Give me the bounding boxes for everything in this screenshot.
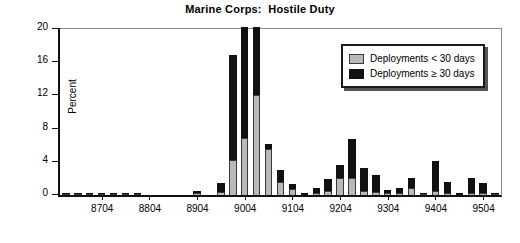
bar-9303 (372, 175, 379, 195)
bar-segment-long-9101 (253, 27, 260, 95)
y-tick-16: 16 (52, 61, 60, 62)
x-tick-9404: 9404 (435, 195, 436, 200)
y-tick-label-16: 16 (37, 54, 48, 65)
bar-segment-short-8703 (86, 194, 93, 195)
bar-segment-short-9504 (479, 193, 486, 195)
bar-9402 (408, 178, 415, 195)
bar-9301 (348, 139, 355, 195)
bar-segment-long-9203 (324, 179, 331, 191)
legend-label-long: Deployments ≥ 30 days (370, 68, 474, 79)
y-tick-label-20: 20 (37, 21, 48, 32)
x-tick-label-8704: 8704 (91, 203, 113, 214)
bar-segment-short-8801 (110, 194, 117, 195)
bar-9401 (396, 188, 403, 195)
bar-9203 (324, 179, 331, 195)
x-tick-9204: 9204 (340, 195, 341, 200)
bar-9302 (360, 168, 367, 195)
x-tick-label-9204: 9204 (329, 203, 351, 214)
bar-segment-long-9002 (217, 183, 224, 191)
bar-segment-short-9402 (408, 188, 415, 195)
bar-segment-long-9201 (301, 193, 308, 195)
y-tick-label-4: 4 (42, 154, 48, 165)
bar-9002 (217, 183, 224, 195)
bar-segment-long-9103 (277, 170, 284, 182)
bar-segment-short-8702 (74, 194, 81, 195)
bar-8802 (122, 193, 129, 195)
bar-8803 (134, 193, 141, 195)
chart-legend: Deployments < 30 days Deployments ≥ 30 d… (341, 44, 485, 88)
legend-label-short: Deployments < 30 days (370, 53, 475, 64)
bar-segment-short-9401 (396, 193, 403, 195)
bar-segment-long-9501 (444, 182, 451, 193)
bar-segment-short-9301 (348, 178, 355, 195)
bar-segment-short-9403 (420, 194, 427, 195)
bar-9503 (468, 178, 475, 195)
bar-8703 (86, 193, 93, 195)
bar-9304 (384, 190, 391, 195)
bar-9204 (336, 165, 343, 195)
bar-segment-short-9501 (444, 193, 451, 195)
bar-segment-short-9101 (253, 95, 260, 195)
bar-9004 (241, 27, 248, 195)
bar-segment-short-9104 (289, 189, 296, 195)
bar-9103 (277, 170, 284, 195)
legend-swatch-black-icon (349, 69, 364, 79)
bar-9404 (432, 161, 439, 195)
y-tick-12: 12 (52, 94, 60, 95)
bar-segment-short-9203 (324, 191, 331, 195)
y-tick-4: 4 (52, 161, 60, 162)
bar-segment-short-9103 (277, 182, 284, 195)
bar-9501 (444, 182, 451, 195)
bar-segment-long-9004 (241, 27, 248, 138)
bar-segment-short-9003 (229, 160, 236, 195)
bar-9502 (456, 193, 463, 195)
bar-segment-short-8704 (98, 194, 105, 195)
x-tick-label-9004: 9004 (234, 203, 256, 214)
bar-segment-short-8904 (193, 193, 200, 195)
bar-8704 (98, 193, 105, 195)
bar-9202 (313, 188, 320, 195)
bar-segment-long-9303 (372, 175, 379, 192)
legend-swatch-gray-icon (349, 54, 364, 64)
bar-9601 (491, 193, 498, 195)
x-tick-8904: 8904 (197, 195, 198, 200)
bar-segment-long-9302 (360, 168, 367, 190)
bar-segment-short-9002 (217, 192, 224, 195)
bar-segment-short-8701 (62, 194, 69, 195)
x-tick-label-8904: 8904 (186, 203, 208, 214)
bar-9104 (289, 184, 296, 195)
bar-8702 (74, 193, 81, 195)
x-tick-9304: 9304 (388, 195, 389, 200)
bar-segment-long-9404 (432, 161, 439, 191)
y-tick-8: 8 (52, 128, 60, 129)
y-tick-label-0: 0 (42, 187, 48, 198)
bar-segment-short-9404 (432, 191, 439, 195)
x-tick-label-8804: 8804 (139, 203, 161, 214)
bar-segment-long-9301 (348, 139, 355, 178)
y-tick-label-12: 12 (37, 87, 48, 98)
bar-segment-short-9601 (491, 194, 498, 195)
bar-segment-short-9302 (360, 191, 367, 195)
bar-8801 (110, 193, 117, 195)
bar-segment-short-8803 (134, 194, 141, 195)
y-tick-label-8: 8 (42, 121, 48, 132)
bar-8701 (62, 193, 69, 195)
legend-item-long: Deployments ≥ 30 days (349, 66, 475, 81)
bar-segment-short-9202 (313, 193, 320, 195)
bar-segment-short-9102 (265, 149, 272, 195)
x-tick-label-9504: 9504 (472, 203, 494, 214)
x-tick-label-9304: 9304 (377, 203, 399, 214)
bar-segment-long-9402 (408, 178, 415, 189)
bar-segment-short-9503 (468, 193, 475, 195)
x-tick-label-9104: 9104 (282, 203, 304, 214)
x-tick-9104: 9104 (292, 195, 293, 200)
bar-segment-short-9204 (336, 178, 343, 195)
bar-segment-long-9502 (456, 193, 463, 195)
legend-item-short: Deployments < 30 days (349, 51, 475, 66)
x-tick-8704: 8704 (102, 195, 103, 200)
bar-segment-long-9003 (229, 55, 236, 160)
bar-segment-short-8802 (122, 194, 129, 195)
bar-9201 (301, 193, 308, 195)
bar-segment-long-9503 (468, 178, 475, 193)
x-tick-label-9404: 9404 (425, 203, 447, 214)
